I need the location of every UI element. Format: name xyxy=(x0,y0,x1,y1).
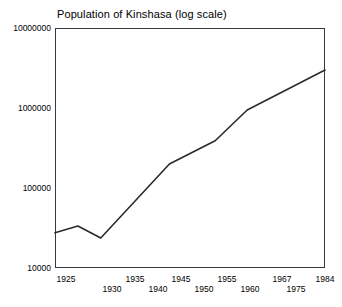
x-axis-labels: 1925 1930 1935 1940 1945 1950 1955 1960 … xyxy=(0,0,342,307)
x-tick-label-1967: 1967 xyxy=(273,274,292,284)
x-tick-label-1960: 1960 xyxy=(241,284,260,294)
x-tick-label-1935: 1935 xyxy=(126,274,145,284)
x-tick-label-1975: 1975 xyxy=(287,284,306,294)
x-tick-label-1950: 1950 xyxy=(195,284,214,294)
x-tick-label-1955: 1955 xyxy=(218,274,237,284)
chart-screenshot: Population of Kinshasa (log scale) 10000… xyxy=(0,0,342,307)
x-tick-label-1984: 1984 xyxy=(316,274,335,284)
x-tick-label-1930: 1930 xyxy=(103,284,122,294)
x-tick-label-1940: 1940 xyxy=(149,284,168,294)
x-tick-label-1925: 1925 xyxy=(57,274,76,284)
x-tick-label-1945: 1945 xyxy=(172,274,191,284)
